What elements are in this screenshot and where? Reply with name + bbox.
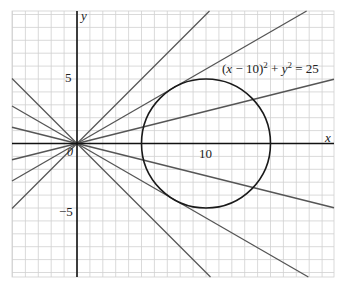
line-through-origin bbox=[12, 106, 308, 277]
y-tick-minus-5: −5 bbox=[59, 205, 73, 218]
y-axis-label: y bbox=[81, 9, 87, 22]
line-through-origin bbox=[12, 79, 211, 278]
origin-label: 0 bbox=[67, 146, 73, 158]
y-tick-5: 5 bbox=[65, 71, 72, 84]
line-through-origin bbox=[12, 11, 307, 181]
axes bbox=[12, 11, 334, 277]
circle-equation-label: (x − 10)2 + y2 = 25 bbox=[222, 62, 319, 75]
x-tick-10: 10 bbox=[199, 147, 212, 160]
x-axis-label: x bbox=[325, 131, 331, 144]
eq-part4: = 25 bbox=[292, 61, 319, 76]
coordinate-plot bbox=[0, 0, 341, 288]
eq-part3: + bbox=[268, 61, 282, 76]
line-through-origin bbox=[12, 127, 334, 208]
line-through-origin bbox=[12, 79, 334, 160]
eq-part2: − 10) bbox=[232, 61, 263, 76]
